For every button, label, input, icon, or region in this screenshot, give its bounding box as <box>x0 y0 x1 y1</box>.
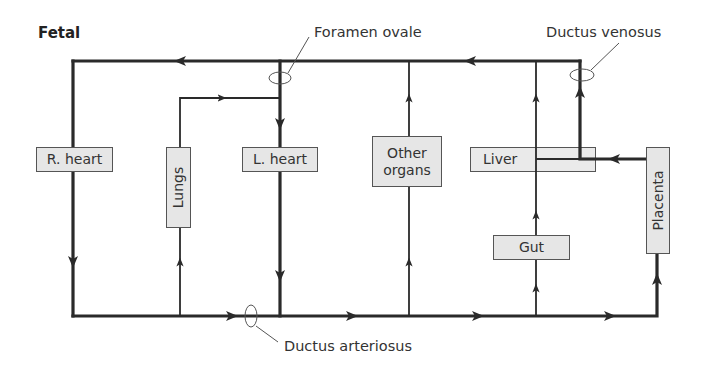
circulation-diagram <box>0 0 703 382</box>
lungs-box: Lungs <box>166 147 191 228</box>
r-heart-box: R. heart <box>36 147 113 172</box>
bottom-aorta-line <box>73 253 657 316</box>
placenta-box: Placenta <box>646 147 670 254</box>
ductus-venosus-line <box>580 61 646 159</box>
gut-box: Gut <box>493 235 570 260</box>
other-organs-box: Other organs <box>372 136 442 187</box>
diagram-title: Fetal <box>38 24 80 42</box>
ductus-arteriosus-label: Ductus arteriosus <box>284 338 412 354</box>
ductus-venosus-marker <box>570 69 594 81</box>
ductus-venosus-label: Ductus venosus <box>546 24 661 40</box>
lungs-line <box>180 98 280 316</box>
liver-box: Liver <box>470 147 596 172</box>
l-heart-box: L. heart <box>242 147 318 172</box>
foramen-ovale-label: Foramen ovale <box>314 24 422 40</box>
